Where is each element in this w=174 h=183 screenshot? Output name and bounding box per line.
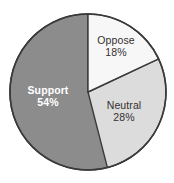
pie-label-neutral: Neutral 28% [96, 99, 152, 124]
pie-label-neutral-value: 28% [96, 111, 152, 123]
pie-label-neutral-name: Neutral [96, 99, 152, 111]
pie-label-support: Support 54% [20, 84, 76, 109]
pie-label-oppose-value: 18% [88, 46, 144, 58]
pie-chart: Oppose 18% Neutral 28% Support 54% [0, 0, 174, 183]
pie-label-oppose: Oppose 18% [88, 34, 144, 59]
pie-label-support-name: Support [20, 84, 76, 96]
pie-label-oppose-name: Oppose [88, 34, 144, 46]
pie-label-support-value: 54% [20, 96, 76, 108]
